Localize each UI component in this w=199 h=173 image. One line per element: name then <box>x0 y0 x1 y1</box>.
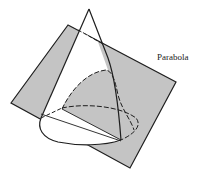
cone-section-diagram: Parabola <box>0 0 199 173</box>
diagram-svg <box>0 0 199 173</box>
parabola-label: Parabola <box>157 52 189 62</box>
